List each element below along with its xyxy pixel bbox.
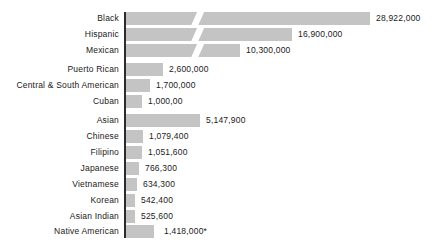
category-label: Mexican xyxy=(86,44,124,57)
bar xyxy=(126,44,240,57)
chart-row: Japanese766,300 xyxy=(0,162,441,175)
chart-row: Black28,922,000 xyxy=(0,12,441,25)
value-label: 542,400 xyxy=(141,194,173,207)
chart-row: Central & South American1,700,000 xyxy=(0,79,441,92)
chart-row: Filipino1,051,600 xyxy=(0,146,441,159)
chart-row: Native American1,418,000* xyxy=(0,225,441,238)
category-label: Korean xyxy=(90,194,124,207)
category-label: Puerto Rican xyxy=(67,63,124,76)
bar xyxy=(126,178,137,191)
value-label: 10,300,000 xyxy=(246,44,291,57)
category-label: Japanese xyxy=(81,162,124,175)
category-label: Asian xyxy=(97,114,124,127)
value-label: 1,418,000* xyxy=(164,225,207,238)
chart-row: Vietnamese634,300 xyxy=(0,178,441,191)
category-label: Native American xyxy=(54,225,124,238)
chart-row: Puerto Rican2,600,000 xyxy=(0,63,441,76)
value-label: 1,079,400 xyxy=(149,130,189,143)
category-label: Vietnamese xyxy=(72,178,124,191)
chart-row: Korean542,400 xyxy=(0,194,441,207)
category-label: Black xyxy=(97,12,124,25)
bar xyxy=(126,114,200,127)
bar xyxy=(126,130,143,143)
value-label: 1,700,000 xyxy=(156,79,196,92)
value-label: 28,922,000 xyxy=(376,12,421,25)
category-label: Hispanic xyxy=(85,28,124,41)
value-label: 5,147,900 xyxy=(206,114,246,127)
bar xyxy=(126,12,370,25)
value-label: 634,300 xyxy=(143,178,175,191)
chart-row: Asian Indian525,600 xyxy=(0,210,441,223)
category-label: Central & South American xyxy=(16,79,124,92)
value-label: 2,600,000 xyxy=(169,63,209,76)
bar xyxy=(126,95,142,108)
value-label: 1,051,600 xyxy=(148,146,188,159)
category-label: Chinese xyxy=(86,130,124,143)
category-label: Filipino xyxy=(90,146,124,159)
category-label: Cuban xyxy=(93,95,124,108)
chart-row: Mexican10,300,000 xyxy=(0,44,441,57)
bar xyxy=(126,225,154,238)
chart-row: Asian5,147,900 xyxy=(0,114,441,127)
value-label: 16,900,000 xyxy=(298,28,343,41)
bar xyxy=(126,162,139,175)
chart-row: Cuban1,000,00 xyxy=(0,95,441,108)
bar xyxy=(126,194,135,207)
bar xyxy=(126,146,142,159)
bar xyxy=(126,28,292,41)
chart-row: Hispanic16,900,000 xyxy=(0,28,441,41)
chart-row: Chinese1,079,400 xyxy=(0,130,441,143)
bar xyxy=(126,79,150,92)
population-bar-chart: Black28,922,000Hispanic16,900,000Mexican… xyxy=(0,0,441,251)
bar xyxy=(126,210,135,223)
value-label: 1,000,00 xyxy=(148,95,183,108)
value-label: 766,300 xyxy=(145,162,177,175)
bar xyxy=(126,63,163,76)
category-label: Asian Indian xyxy=(70,210,124,223)
value-label: 525,600 xyxy=(141,210,173,223)
